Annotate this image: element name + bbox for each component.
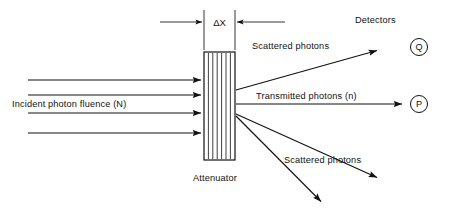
detector-p-label: P [416, 99, 422, 109]
detector-q-label: Q [415, 42, 422, 52]
scattered-photons-lower-label: Scattered photons [284, 155, 361, 165]
transmitted-photons-label: Transmitted photons (n) [256, 91, 357, 101]
outgoing-ray-group [236, 51, 402, 202]
scattered-ray-lower-shallow [236, 114, 377, 178]
incident-photon-fluence-label: Incident photon fluence (N) [12, 99, 126, 109]
attenuation-diagram: Q P ΔX Detectors Scattered photons Trans… [0, 0, 449, 210]
detector-group: Q P [411, 39, 428, 113]
attenuator-block-group [204, 52, 235, 160]
thickness-label: ΔX [213, 17, 226, 28]
detectors-label: Detectors [355, 15, 396, 25]
scattered-photons-upper-label: Scattered photons [252, 41, 329, 51]
attenuator-label: Attenuator [193, 173, 237, 183]
scattered-ray-upper [236, 51, 377, 91]
